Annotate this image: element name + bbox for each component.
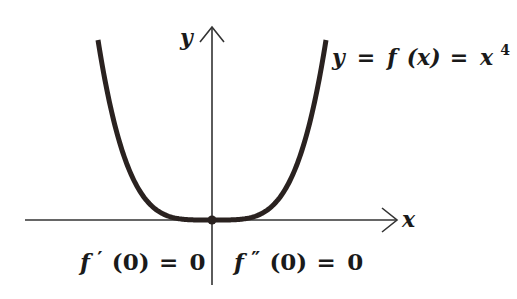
fd-f: f: [78, 248, 94, 275]
svg-text:f ″ (0) =: f ″ (0) = 0: [232, 245, 363, 275]
fd-prime: ′: [97, 247, 102, 271]
fd-val: 0: [190, 248, 206, 275]
eq-base-x: x: [479, 44, 494, 70]
y-axis-label: y: [179, 24, 195, 50]
x-axis-label: x: [401, 206, 416, 232]
svg-text:y = f (x): y = f (x) = x 4: [331, 42, 510, 70]
sd-arg: (0): [269, 248, 307, 275]
fd-eq: =: [159, 248, 178, 275]
fd-arg: (0): [112, 248, 150, 275]
eq-equals-2: =: [450, 44, 468, 70]
curve-equation-label: y = f (x) = x 4: [331, 42, 510, 70]
sd-val: 0: [347, 248, 363, 275]
origin-point: [208, 216, 217, 225]
x4-diagram: y x y = f (x) = x 4 f ′ (0) = 0 f ″ (0) …: [0, 0, 517, 299]
sd-prime: ″: [251, 247, 260, 271]
second-derivative-annotation: f ″ (0) = 0: [232, 245, 363, 275]
eq-arg: (x): [407, 44, 441, 70]
eq-exponent: 4: [500, 42, 510, 58]
first-derivative-annotation: f ′ (0) = 0: [78, 245, 206, 275]
eq-equals-1: =: [357, 44, 375, 70]
y-axis: [200, 27, 224, 285]
svg-text:f ′ (0) =: f ′ (0) = 0: [78, 245, 206, 275]
eq-f: f: [385, 44, 400, 70]
sd-eq: =: [317, 248, 336, 275]
eq-y: y: [331, 44, 347, 70]
sd-f: f: [232, 248, 248, 275]
